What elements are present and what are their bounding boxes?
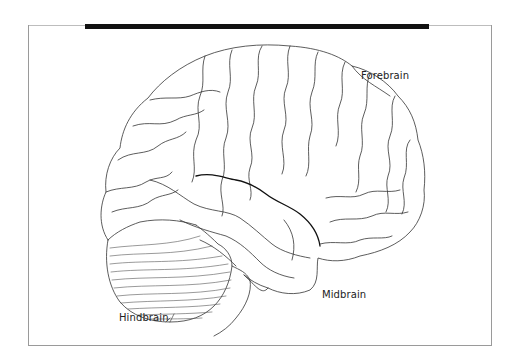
label-midbrain: Midbrain (322, 289, 366, 300)
label-forebrain: Forebrain (361, 70, 409, 81)
brainstem (214, 266, 250, 336)
cerebrum-outline (101, 45, 425, 294)
brain-illustration (0, 0, 518, 360)
label-hindbrain: Hindbrain (119, 312, 169, 323)
